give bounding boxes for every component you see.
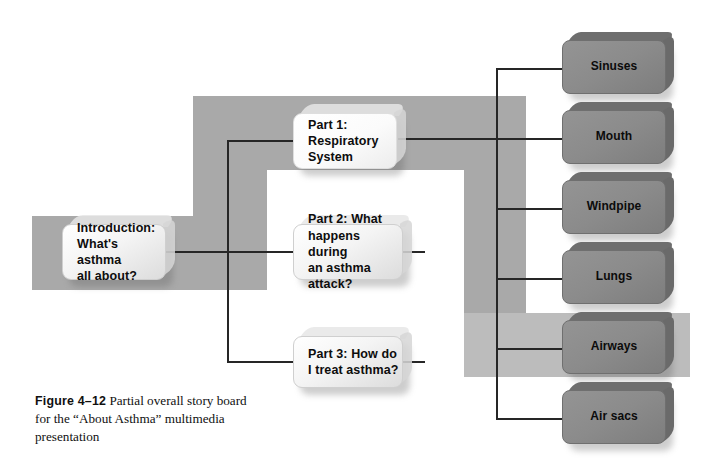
figure-caption: Figure 4–12 Partial overall story board … xyxy=(35,392,265,447)
connector-spine-to-part3 xyxy=(227,361,293,363)
connector-spine-to-airways xyxy=(496,348,562,350)
node-body: Air sacs xyxy=(562,390,666,444)
connector-spine-to-part2 xyxy=(227,251,293,253)
node-body: Mouth xyxy=(562,110,666,164)
node-body: Airways xyxy=(562,320,666,374)
node-sinuses[interactable]: Sinuses xyxy=(562,40,666,94)
node-label: Sinuses xyxy=(591,59,638,75)
node-part1[interactable]: Part 1: Respiratory System xyxy=(293,113,397,169)
node-part2[interactable]: Part 2: What happens during an asthma at… xyxy=(293,224,403,280)
node-label: Air sacs xyxy=(590,409,638,425)
node-body: Introduction: What's asthma all about? xyxy=(62,224,166,280)
node-body: Part 3: How do I treat asthma? xyxy=(293,336,403,388)
node-label: Lungs xyxy=(596,269,633,285)
node-mouth[interactable]: Mouth xyxy=(562,110,666,164)
figure-number: Figure 4–12 xyxy=(35,394,106,408)
node-label: Mouth xyxy=(596,129,632,145)
node-body: Part 1: Respiratory System xyxy=(293,113,397,169)
node-body: Sinuses xyxy=(562,40,666,94)
connector-spine-to-airsacs xyxy=(496,418,562,420)
node-body: Lungs xyxy=(562,250,666,304)
node-body: Part 2: What happens during an asthma at… xyxy=(293,224,403,280)
node-introduction[interactable]: Introduction: What's asthma all about? xyxy=(62,224,166,280)
connector-spine-to-sinuses xyxy=(496,68,562,70)
node-label: Part 3: How do I treat asthma? xyxy=(294,346,398,379)
node-airways[interactable]: Airways xyxy=(562,320,666,374)
node-part3[interactable]: Part 3: How do I treat asthma? xyxy=(293,336,403,388)
node-label: Introduction: What's asthma all about? xyxy=(63,220,165,285)
connector-spine-to-lungs xyxy=(496,278,562,280)
node-label: Airways xyxy=(591,339,638,355)
node-label: Part 2: What happens during an asthma at… xyxy=(294,211,402,292)
node-body: Windpipe xyxy=(562,180,666,234)
connector-part1-to-right-spine xyxy=(398,138,562,140)
connector-spine-to-part1 xyxy=(227,140,293,142)
connector-right-spine xyxy=(496,68,498,420)
storyboard-diagram: Introduction: What's asthma all about? P… xyxy=(0,0,715,476)
connector-spine-to-windpipe xyxy=(496,208,562,210)
node-label: Part 1: Respiratory System xyxy=(294,117,379,166)
node-air-sacs[interactable]: Air sacs xyxy=(562,390,666,444)
node-lungs[interactable]: Lungs xyxy=(562,250,666,304)
node-label: Windpipe xyxy=(587,199,642,215)
node-windpipe[interactable]: Windpipe xyxy=(562,180,666,234)
